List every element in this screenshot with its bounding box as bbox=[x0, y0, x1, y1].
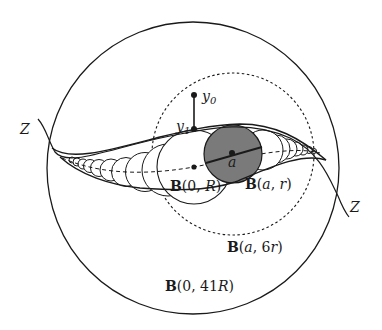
point-origin bbox=[191, 164, 196, 169]
label-z-right: Z bbox=[349, 199, 360, 215]
figure-container: Z Z y0 y1 a B(0, R) B(a, r) B(a, 6r) B(0… bbox=[0, 0, 382, 330]
label-a: a bbox=[228, 154, 236, 170]
label-ball-0-41R: B(0, 41R) bbox=[165, 278, 234, 294]
label-ball-a-r: B(a, r) bbox=[245, 176, 292, 192]
label-z-left: Z bbox=[19, 121, 30, 137]
point-y0 bbox=[191, 92, 197, 98]
label-ball-a-6r: B(a, 6r) bbox=[227, 239, 283, 255]
label-y0: y0 bbox=[201, 88, 217, 106]
point-y1 bbox=[191, 126, 197, 132]
label-y1: y1 bbox=[175, 118, 190, 136]
diagram-canvas: Z Z y0 y1 a B(0, R) B(a, r) B(a, 6r) B(0… bbox=[0, 0, 382, 330]
label-ball-0-R: B(0, R) bbox=[170, 178, 221, 194]
